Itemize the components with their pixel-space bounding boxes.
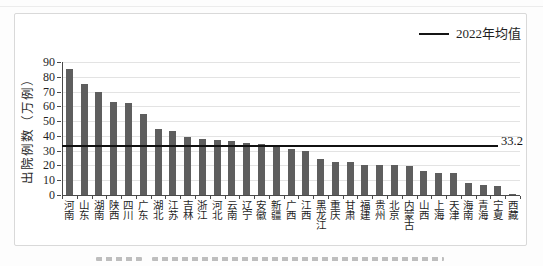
legend: 2022年均值 xyxy=(419,26,521,42)
y-axis-title: 出院例数（万例） xyxy=(17,72,36,184)
caption-fragment-right xyxy=(152,257,444,261)
page-top-rule xyxy=(0,6,543,7)
chart-box xyxy=(14,13,527,246)
chart-screenshot: 2022年均值 出院例数（万例） 0102030405060708090河 南山… xyxy=(0,0,543,266)
mean-line-legend-key-icon xyxy=(419,33,449,35)
caption-fragment-left xyxy=(96,257,142,261)
legend-label: 2022年均值 xyxy=(456,26,521,42)
